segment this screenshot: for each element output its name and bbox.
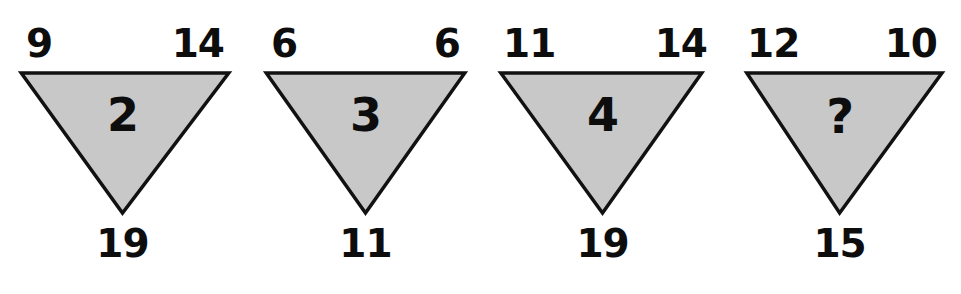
triangle-1-top-left-value: 9 (26, 24, 52, 63)
triangle-4-top-right-value: 10 (885, 24, 937, 63)
triangle-1-bottom-value: 19 (0, 224, 245, 263)
triangle-puzzle-canvas: 914192661131114194121015? (0, 0, 961, 294)
triangle-2-top-left-value: 6 (271, 24, 297, 63)
triangle-3: 1114194 (481, 0, 729, 294)
triangle-2: 66113 (243, 0, 488, 294)
triangle-2-center-value: 3 (243, 92, 488, 138)
triangle-3-center-value: 4 (481, 92, 724, 138)
triangle-3-top-left-value: 11 (503, 24, 555, 63)
triangle-2-top-right-value: 6 (434, 24, 460, 63)
triangle-3-top-right-value: 14 (655, 24, 707, 63)
triangle-4-center-unknown: ? (723, 92, 956, 140)
triangle-1-center-value: 2 (0, 92, 245, 138)
triangle-2-bottom-value: 11 (243, 224, 488, 263)
triangle-4-top-left-value: 12 (747, 24, 799, 63)
triangle-1: 914192 (0, 0, 250, 294)
triangle-1-top-right-value: 14 (172, 24, 224, 63)
triangle-3-bottom-value: 19 (481, 224, 724, 263)
triangle-4: 121015? (723, 0, 961, 294)
triangle-4-bottom-value: 15 (723, 224, 956, 263)
